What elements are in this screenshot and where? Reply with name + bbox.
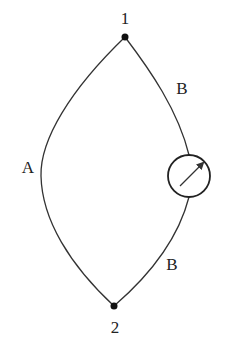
node-1-dot bbox=[122, 34, 129, 41]
branch-b-lower-label: B bbox=[166, 255, 177, 274]
meter-circle bbox=[168, 155, 210, 197]
branch-b-lower-wire bbox=[114, 197, 189, 306]
node-2-label: 2 bbox=[111, 318, 120, 337]
node-1-label: 1 bbox=[121, 9, 130, 28]
node-2-dot bbox=[111, 303, 118, 310]
branch-b-upper-label: B bbox=[176, 79, 187, 98]
circuit-diagram: 1 2 A B B bbox=[0, 0, 234, 353]
meter-icon bbox=[168, 155, 210, 197]
branch-a-wire bbox=[41, 37, 125, 306]
branch-a-label: A bbox=[22, 158, 35, 177]
